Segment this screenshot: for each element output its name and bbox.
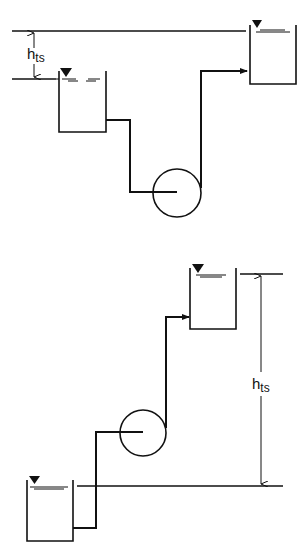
suction-tank [27,476,73,541]
water-level-icon [29,476,40,484]
hts-label: hts [252,375,270,395]
diagram-bottom: hts [27,264,283,541]
water-level-icon [60,68,72,77]
suction-pipe [73,432,143,528]
water-level-icon [252,20,262,28]
suction-pipe [106,120,177,192]
discharge-pipe [201,71,247,188]
dimension-hts: hts [252,276,270,484]
diagram-top: hts [12,20,296,217]
discharge-pipe [166,317,189,428]
suction-tank [56,68,106,132]
discharge-tank [190,264,236,329]
pump-static-head-diagrams: hts [0,0,306,550]
water-level-icon [192,264,204,273]
dimension-hts: hts [27,33,45,77]
discharge-tank [250,20,296,84]
hts-label: hts [27,45,45,65]
